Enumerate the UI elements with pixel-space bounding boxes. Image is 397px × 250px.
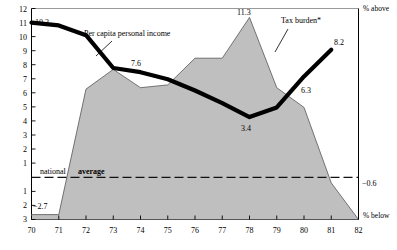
series-label-tax-burden: Tax burden* (281, 16, 321, 25)
y-tick-label: 9 (23, 47, 27, 56)
y-tick-label: 10 (19, 33, 27, 42)
data-label-6-3: 6.3 (301, 86, 311, 95)
series-tax-burden-area (32, 17, 359, 219)
y-tick-label: 8 (23, 61, 27, 70)
data-label-minus-2-7: −2.7 (33, 202, 48, 211)
leader-line-tax-burden (275, 29, 288, 52)
national-average-label-right: average (78, 167, 105, 176)
y-tick-label: 1 (23, 159, 27, 168)
data-label-minus-0-6: −0.6 (362, 179, 377, 188)
tax-burden-area-path (32, 17, 359, 219)
y-tick-label: 7 (23, 75, 27, 84)
x-tick-label: 73 (109, 226, 117, 235)
national-average-label-left: national (40, 167, 67, 176)
chart-canvas: 12 11 10 9 8 7 6 5 4 3 2 1 1 2 3 (0, 0, 397, 250)
x-tick-label: 75 (164, 226, 172, 235)
series-label-per-capita-personal-income: Per capita personal income (84, 29, 171, 38)
data-label-3-4: 3.4 (241, 124, 251, 133)
x-tick-label: 78 (246, 226, 254, 235)
y-tick-label: 3 (23, 215, 27, 224)
data-label-10-2: 10.2 (35, 18, 49, 27)
y-tick-label: 2 (23, 201, 27, 210)
axis-caption-percent-above: % above (363, 4, 390, 13)
x-tick-label: 72 (82, 226, 90, 235)
y-tick-label: 2 (23, 145, 27, 154)
x-tick-label: 71 (55, 226, 63, 235)
y-tick-label: 4 (23, 117, 27, 126)
axis-caption-percent-below: % below (363, 211, 390, 220)
y-tick-label: 5 (23, 103, 27, 112)
x-tick-label: 76 (191, 226, 199, 235)
y-tick-label: 11 (19, 19, 27, 28)
x-tick-label: 79 (273, 226, 281, 235)
x-tick-label: 82 (355, 226, 363, 235)
y-tick-label: 3 (23, 131, 27, 140)
y-tick-label: 1 (23, 187, 27, 196)
data-label-8-2: 8.2 (334, 38, 344, 47)
x-tick-label: 74 (137, 226, 145, 235)
y-tick-label: 12 (19, 5, 27, 14)
data-label-11-3: 11.3 (237, 8, 251, 17)
chart-figure: 12 11 10 9 8 7 6 5 4 3 2 1 1 2 3 (0, 0, 397, 250)
y-axis-ticks-above: 12 11 10 9 8 7 6 5 4 3 2 1 (19, 5, 36, 169)
x-tick-label: 77 (218, 226, 226, 235)
x-tick-label: 70 (28, 226, 36, 235)
y-tick-label: 6 (23, 89, 27, 98)
x-tick-label: 80 (300, 226, 308, 235)
x-tick-label: 81 (327, 226, 335, 235)
data-label-7-6: 7.6 (131, 59, 141, 68)
